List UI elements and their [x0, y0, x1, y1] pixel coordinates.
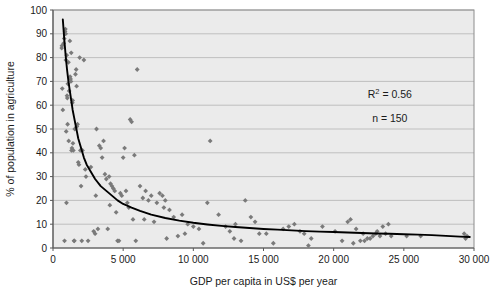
y-tick-label-70: 70 [36, 76, 48, 87]
y-tick-label-10: 10 [36, 219, 48, 230]
x-tick-label-30000: 30 000 [459, 254, 490, 265]
y-tick-label-30: 30 [36, 171, 48, 182]
x-tick-label-10000: 10 000 [178, 254, 209, 265]
chart-figure: 0102030405060708090100 05 00010 00015 00… [0, 0, 496, 295]
y-axis-title: % of population in agriculture [4, 61, 16, 197]
r-squared-annotation: R2 = 0.56 [368, 87, 412, 100]
x-tick-label-15000: 15 000 [248, 254, 279, 265]
y-tick-label-0: 0 [41, 243, 47, 254]
x-tick-label-5000: 5 000 [111, 254, 136, 265]
y-tick-label-80: 80 [36, 52, 48, 63]
x-axis-title: GDP per capita in US$ per year [190, 275, 338, 287]
y-tick-label-20: 20 [36, 195, 48, 206]
scatter-plot-svg: 0102030405060708090100 05 00010 00015 00… [0, 0, 496, 295]
y-tick-label-50: 50 [36, 124, 48, 135]
x-tick-label-25000: 25 000 [389, 254, 420, 265]
y-tick-label-90: 90 [36, 28, 48, 39]
y-tick-label-40: 40 [36, 147, 48, 158]
x-tick-label-0: 0 [50, 254, 56, 265]
y-tick-label-100: 100 [30, 5, 47, 16]
x-tick-label-20000: 20 000 [318, 254, 349, 265]
sample-size-annotation: n = 150 [372, 112, 407, 124]
y-tick-label-60: 60 [36, 100, 48, 111]
